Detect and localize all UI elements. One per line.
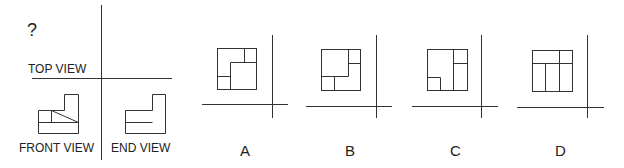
option-b-drawing (306, 35, 392, 118)
front-view-label: FRONT VIEW (19, 141, 94, 155)
end-view-label: END VIEW (111, 141, 170, 155)
end-view-drawing (126, 95, 166, 134)
question-mark: ? (27, 20, 37, 41)
option-a-drawing (202, 35, 288, 118)
top-view-label: TOP VIEW (28, 62, 86, 76)
option-b-label[interactable]: B (345, 142, 355, 159)
front-view-drawing (39, 95, 79, 134)
option-c-drawing (412, 35, 498, 118)
option-d-label[interactable]: D (555, 142, 566, 159)
option-d-drawing (517, 35, 604, 118)
option-a-label[interactable]: A (240, 142, 250, 159)
option-c-label[interactable]: C (450, 142, 461, 159)
